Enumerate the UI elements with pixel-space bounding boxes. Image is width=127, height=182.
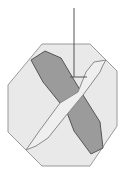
- octagon-band-diagram: [0, 0, 127, 182]
- diagram-canvas: [0, 0, 127, 182]
